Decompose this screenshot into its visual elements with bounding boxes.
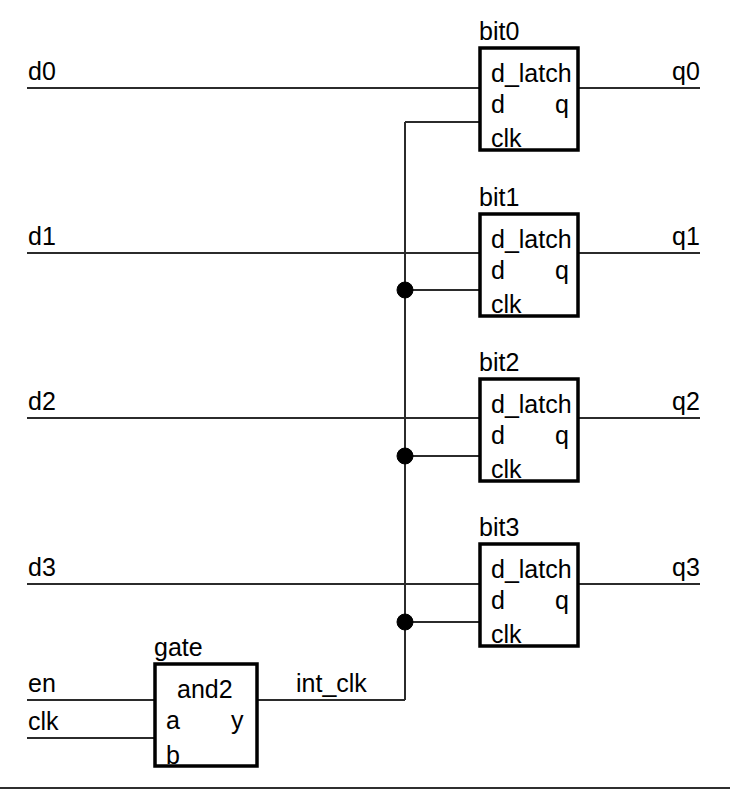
latch-port-d-bit0: d [491, 90, 505, 118]
latch-port-q-bit3: q [555, 586, 569, 614]
junction-dot-bit3-clk [397, 614, 413, 630]
gate-port-b: b [166, 741, 180, 769]
junction-dot-bit2-clk [397, 448, 413, 464]
latch-port-q-bit0: q [555, 90, 569, 118]
gate-type-label: and2 [177, 675, 233, 703]
input-label-d0: d0 [28, 57, 56, 85]
latch-instance-label-bit3: bit3 [479, 513, 519, 541]
latch-instance-label-bit1: bit1 [479, 183, 519, 211]
latch-port-clk-bit1: clk [491, 290, 522, 318]
input-label-clk: clk [28, 707, 59, 735]
gate-port-a: a [166, 706, 180, 734]
latch-instance-label-bit0: bit0 [479, 17, 519, 45]
gate-port-y: y [231, 706, 244, 734]
latch-port-clk-bit2: clk [491, 455, 522, 483]
latch-port-d-bit3: d [491, 586, 505, 614]
output-label-q2: q2 [672, 387, 700, 415]
gate-instance-label: gate [154, 633, 203, 661]
latch-port-q-bit1: q [555, 256, 569, 284]
input-label-d1: d1 [28, 222, 56, 250]
latch-type-label-bit1: d_latch [491, 225, 572, 253]
latch-type-label-bit3: d_latch [491, 555, 572, 583]
output-label-q1: q1 [672, 222, 700, 250]
latch-port-clk-bit3: clk [491, 620, 522, 648]
latch-instance-label-bit2: bit2 [479, 348, 519, 376]
schematic-canvas: bit0 d_latch d q clk bit1 d_latch d q cl… [0, 0, 730, 803]
output-label-q0: q0 [672, 57, 700, 85]
schematic-diagram: bit0 d_latch d q clk bit1 d_latch d q cl… [0, 0, 730, 803]
latch-type-label-bit0: d_latch [491, 59, 572, 87]
output-label-q3: q3 [672, 553, 700, 581]
latch-port-d-bit1: d [491, 256, 505, 284]
input-label-d2: d2 [28, 387, 56, 415]
latch-type-label-bit2: d_latch [491, 390, 572, 418]
latch-port-d-bit2: d [491, 421, 505, 449]
net-label-int-clk: int_clk [296, 669, 367, 697]
latch-port-clk-bit0: clk [491, 124, 522, 152]
input-label-en: en [28, 669, 56, 697]
input-label-d3: d3 [28, 553, 56, 581]
latch-port-q-bit2: q [555, 421, 569, 449]
junction-dot-bit1-clk [397, 282, 413, 298]
